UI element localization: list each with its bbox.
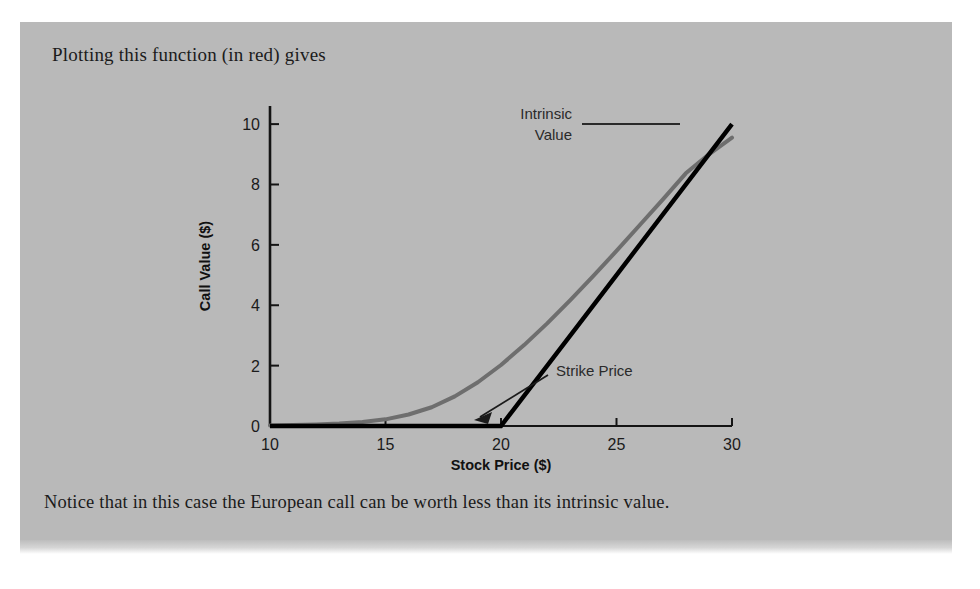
y-axis-tick-labels: 0246810: [242, 116, 260, 435]
x-tick-label: 20: [492, 436, 510, 453]
strike-price-label: Strike Price: [556, 362, 633, 379]
y-tick-label: 6: [251, 237, 260, 254]
intrinsic-value-annotation: Intrinsic Value: [520, 105, 680, 143]
intrinsic-value-label-line1: Intrinsic: [520, 105, 572, 122]
option-value-chart: 0246810 1015202530 Stock Price ($) Call …: [180, 86, 800, 476]
y-tick-label: 0: [251, 418, 260, 435]
intrinsic-value-label-line2: Value: [535, 126, 572, 143]
x-tick-label: 30: [723, 436, 741, 453]
x-axis-tick-labels: 1015202530: [261, 436, 741, 453]
caption-text: Notice that in this case the European ca…: [44, 492, 669, 513]
y-tick-label: 8: [251, 176, 260, 193]
y-tick-label: 2: [251, 358, 260, 375]
x-tick-label: 25: [608, 436, 626, 453]
y-tick-label: 10: [242, 116, 260, 133]
intrinsic-value-line: [270, 124, 732, 426]
y-tick-label: 4: [251, 297, 260, 314]
x-tick-label: 15: [377, 436, 395, 453]
x-axis-title: Stock Price ($): [451, 457, 552, 473]
figure-root: Plotting this function (in red) gives No…: [0, 0, 980, 589]
call-value-curve: [270, 138, 732, 426]
intro-text: Plotting this function (in red) gives: [52, 44, 326, 66]
y-axis-ticks: [270, 124, 279, 426]
y-axis-title: Call Value ($): [197, 221, 213, 311]
page-bottom-fade: [20, 540, 952, 554]
chart-svg: 0246810 1015202530 Stock Price ($) Call …: [180, 86, 800, 476]
x-tick-label: 10: [261, 436, 279, 453]
strike-price-arrow-head: [474, 412, 492, 424]
strike-price-annotation: Strike Price: [474, 362, 633, 424]
